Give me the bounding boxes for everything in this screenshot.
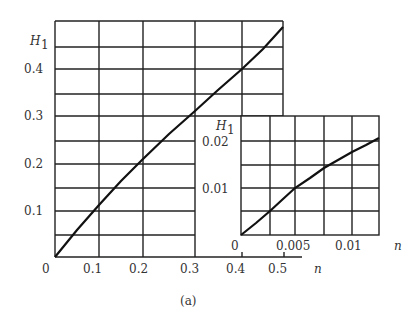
inset-y-tick-0.01: 0.01 <box>202 182 229 196</box>
origin-label: 0 <box>42 262 50 276</box>
inset-origin-label: 0 <box>231 239 239 253</box>
x-tick-0.1: 0.1 <box>83 262 102 276</box>
x-tick-0.3: 0.3 <box>180 262 199 276</box>
svg-text:H: H <box>29 34 41 48</box>
x-tick-0.2: 0.2 <box>129 262 148 276</box>
inset-y-tick-0.02: 0.02 <box>202 135 229 149</box>
x-tick-0.5: 0.5 <box>268 262 287 276</box>
main-x-label: n <box>314 262 322 276</box>
inset-x-tick-0.005: 0.005 <box>276 239 310 253</box>
chart-figure: H 1 0.4 0.3 0.2 0.1 0 0.1 0.2 0.3 0.4 0.… <box>0 0 412 330</box>
inset-x-tick-0.01: 0.01 <box>335 239 362 253</box>
svg-text:H: H <box>215 119 227 133</box>
y-tick-0.3: 0.3 <box>24 109 43 123</box>
y-tick-0.2: 0.2 <box>24 157 43 171</box>
x-tick-0.4: 0.4 <box>226 262 245 276</box>
svg-text:1: 1 <box>41 38 49 52</box>
y-tick-0.4: 0.4 <box>24 62 43 76</box>
y-tick-0.1: 0.1 <box>24 204 43 218</box>
inset-x-label: n <box>394 239 402 253</box>
main-y-label: H 1 <box>29 34 49 52</box>
figure-caption: (a) <box>180 294 197 308</box>
